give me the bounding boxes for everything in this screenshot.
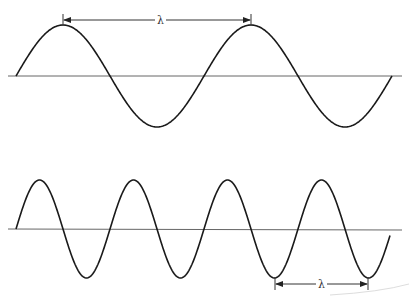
page-curl-edge [330,284,409,295]
long-wave: λ [8,14,402,127]
wavelength-label-top: λ [157,14,164,27]
wavelength-label-bottom: λ [318,278,325,291]
wave-diagram: λ λ [0,0,409,297]
short-wave: λ [8,180,409,295]
axis-line-bottom [8,229,402,230]
